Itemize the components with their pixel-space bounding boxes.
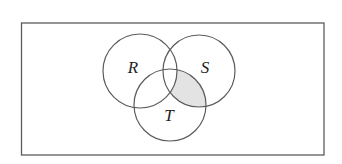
venn-diagram: R S T xyxy=(0,0,342,164)
set-t-label: T xyxy=(164,106,175,125)
set-s-label: S xyxy=(201,58,210,77)
set-r-label: R xyxy=(127,58,139,77)
